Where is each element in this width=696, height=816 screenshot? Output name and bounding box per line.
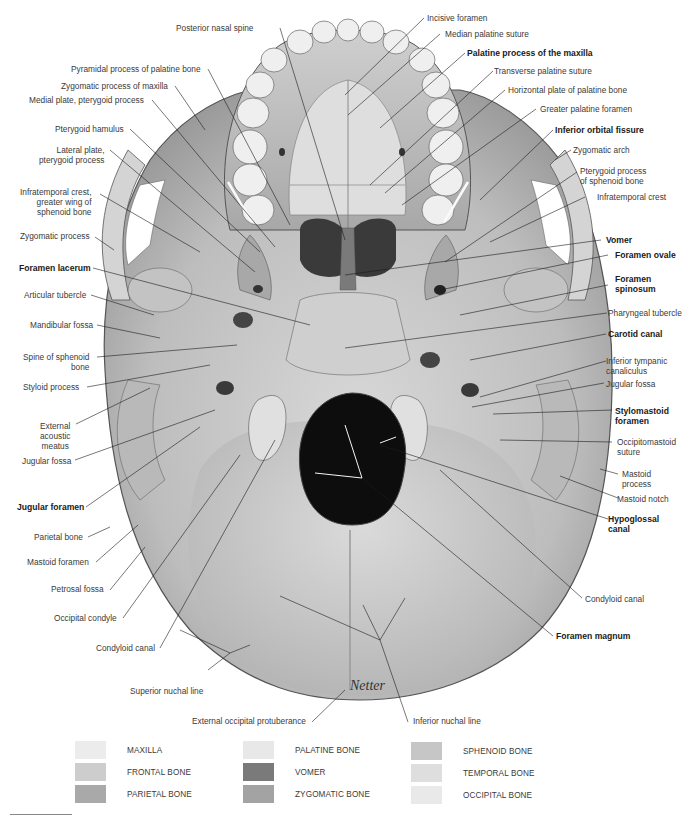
label-horizontal-plate: Horizontal plate of palatine bone	[508, 85, 627, 95]
label-external-occipital-protuberance: External occipital protuberance	[192, 716, 306, 726]
label-transverse-palatine-suture: Transverse palatine suture	[494, 66, 592, 76]
label-zygomatic-arch: Zygomatic arch	[573, 145, 630, 155]
label-jugular-fossa-left: Jugular fossa	[22, 456, 71, 466]
label-articular-tubercle: Articular tubercle	[24, 290, 86, 300]
skull-base-figure: Netter Posterior nasal spine Pyramidal p…	[0, 0, 696, 730]
artist-signature: Netter	[349, 678, 386, 693]
label-incisive-foramen: Incisive foramen	[427, 13, 487, 23]
label-pyramidal-process: Pyramidal process of palatine bone	[71, 64, 201, 74]
label-pterygoid-process-sphenoid: Pterygoid process of sphenoid bone	[580, 166, 646, 186]
legend-swatch	[243, 763, 274, 781]
legend-item-frontal-bone: FRONTAL BONE	[75, 763, 191, 781]
label-mandibular-fossa: Mandibular fossa	[30, 320, 93, 330]
legend-swatch	[411, 786, 442, 804]
legend-swatch	[243, 785, 274, 803]
label-inferior-nuchal-line: Inferior nuchal line	[413, 716, 481, 726]
label-jugular-foramen: Jugular foramen	[17, 502, 84, 512]
legend-item-vomer: VOMER	[243, 763, 326, 781]
legend-item-palatine-bone: PALATINE BONE	[243, 741, 360, 759]
legend-item-occipital-bone: OCCIPITAL BONE	[411, 786, 532, 804]
label-medial-plate: Medial plate, pterygoid process	[29, 95, 144, 105]
label-jugular-fossa-right: Jugular fossa	[606, 379, 655, 389]
label-petrosal-fossa: Petrosal fossa	[51, 584, 104, 594]
label-mastoid-process: Mastoid process	[622, 469, 651, 489]
label-foramen-spinosum: Foramen spinosum	[615, 274, 656, 294]
label-superior-nuchal-line: Superior nuchal line	[130, 686, 203, 696]
legend-item-zygomatic-bone: ZYGOMATIC BONE	[243, 785, 370, 803]
foramen-magnum-shape	[299, 393, 405, 525]
label-mastoid-foramen: Mastoid foramen	[27, 557, 89, 567]
label-occipitomastoid-suture: Occipitomastoid suture	[617, 437, 676, 457]
legend-item-temporal-bone: TEMPORAL BONE	[411, 764, 535, 782]
label-mastoid-notch: Mastoid notch	[617, 494, 669, 504]
label-hypoglossal-canal: Hypoglossal canal	[608, 514, 659, 534]
label-parietal-bone: Parietal bone	[34, 532, 83, 542]
legend-swatch	[411, 764, 442, 782]
label-zygomatic-process: Zygomatic process	[20, 231, 90, 241]
label-infratemporal-crest: Infratemporal crest	[597, 192, 666, 202]
label-foramen-magnum: Foramen magnum	[556, 631, 631, 641]
label-condyloid-canal-left: Condyloid canal	[96, 643, 155, 653]
label-lateral-plate: Lateral plate, pterygoid process	[39, 145, 105, 165]
label-greater-palatine-foramen: Greater palatine foramen	[540, 104, 632, 114]
label-vomer: Vomer	[606, 235, 632, 245]
label-inferior-orbital-fissure: Inferior orbital fissure	[555, 125, 644, 135]
label-external-acoustic-meatus: External acoustic meatus	[40, 421, 70, 451]
label-foramen-ovale: Foramen ovale	[615, 250, 676, 260]
label-stylomastoid-foramen: Stylomastoid foramen	[615, 406, 669, 426]
legend-swatch	[411, 742, 442, 760]
legend-swatch	[75, 763, 106, 781]
label-pharyngeal-tubercle: Pharyngeal tubercle	[608, 308, 682, 318]
legend-swatch	[75, 785, 106, 803]
label-spine-of-sphenoid: Spine of sphenoid bone	[23, 352, 89, 372]
label-condyloid-canal-right: Condyloid canal	[585, 594, 644, 604]
label-palatine-process-maxilla: Palatine process of the maxilla	[467, 48, 593, 58]
label-posterior-nasal-spine: Posterior nasal spine	[176, 23, 253, 33]
label-pterygoid-hamulus: Pterygoid hamulus	[55, 124, 124, 134]
legend-item-sphenoid-bone: SPHENOID BONE	[411, 742, 533, 760]
label-zygomatic-process-maxilla: Zygomatic process of maxilla	[61, 81, 168, 91]
label-foramen-lacerum: Foramen lacerum	[19, 263, 91, 273]
legend-swatch	[243, 741, 274, 759]
label-occipital-condyle: Occipital condyle	[54, 613, 117, 623]
divider-line	[10, 814, 72, 815]
label-styloid-process: Styloid process	[23, 382, 79, 392]
label-median-palatine-suture: Median palatine suture	[445, 29, 529, 39]
legend-swatch	[75, 741, 106, 759]
bone-color-legend: MAXILLA FRONTAL BONE PARIETAL BONE PALAT…	[0, 730, 696, 816]
label-carotid-canal: Carotid canal	[608, 329, 662, 339]
legend-item-maxilla: MAXILLA	[75, 741, 162, 759]
label-inferior-tympanic-canaliculus: Inferior tympanic canaliculus	[606, 356, 667, 376]
label-infratemporal-crest-greater-wing: Infratemporal crest, greater wing of sph…	[20, 187, 91, 217]
legend-item-parietal-bone: PARIETAL BONE	[75, 785, 192, 803]
